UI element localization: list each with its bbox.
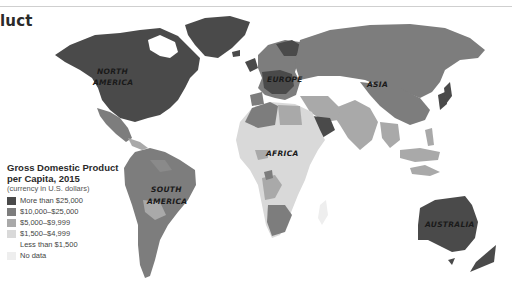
legend-item: No data <box>7 250 127 261</box>
legend-title-line2: per Capita, 2015 <box>7 173 127 184</box>
africa <box>236 102 328 238</box>
label-asia: ASIA <box>366 80 388 89</box>
legend-swatch <box>7 197 16 205</box>
legend-label: Less than $1,500 <box>20 240 78 249</box>
label-south-america: AMERICA <box>146 197 187 206</box>
legend-label: No data <box>20 251 46 260</box>
label-australia: AUSTRALIA <box>424 220 475 229</box>
label-europe: EUROPE <box>267 75 303 84</box>
legend-swatch <box>7 252 16 260</box>
legend-item: $1,500–$4,999 <box>7 228 127 239</box>
legend-swatch <box>7 241 16 249</box>
legend-item: More than $25,000 <box>7 195 127 206</box>
label-africa: AFRICA <box>265 149 299 158</box>
legend-item: $10,000–$25,000 <box>7 206 127 217</box>
legend-swatch <box>7 219 16 227</box>
legend-label: $10,000–$25,000 <box>20 207 78 216</box>
legend-label: More than $25,000 <box>20 196 83 205</box>
legend-swatch <box>7 208 16 216</box>
label-north: NORTH <box>97 67 128 76</box>
label-america: AMERICA <box>92 78 133 87</box>
north-america <box>55 28 200 150</box>
legend-label: $1,500–$4,999 <box>20 229 70 238</box>
legend-title-line1: Gross Domestic Product <box>7 162 127 173</box>
legend-subtitle: (currency in U.S. dollars) <box>7 184 127 193</box>
australia <box>418 196 496 272</box>
legend-label: $5,000–$9,999 <box>20 218 70 227</box>
legend: Gross Domestic Product per Capita, 2015 … <box>7 162 127 261</box>
legend-item: Less than $1,500 <box>7 239 127 250</box>
legend-item: $5,000–$9,999 <box>7 217 127 228</box>
europe <box>245 40 305 106</box>
greenland <box>185 16 250 58</box>
legend-swatch <box>7 230 16 238</box>
label-south: SOUTH <box>151 185 182 194</box>
south-america <box>124 148 196 278</box>
